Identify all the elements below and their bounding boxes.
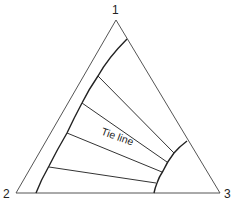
tie-line-1 bbox=[98, 76, 174, 153]
tie-line-4 bbox=[49, 167, 156, 183]
vertex-label-2: 2 bbox=[3, 187, 10, 201]
vertex-label-3: 3 bbox=[224, 187, 231, 201]
binodal-curve-left bbox=[36, 39, 127, 193]
triangle-outline bbox=[16, 20, 220, 193]
ternary-diagram: 1 2 3 Tie line bbox=[0, 0, 238, 205]
vertex-label-1: 1 bbox=[112, 3, 119, 17]
